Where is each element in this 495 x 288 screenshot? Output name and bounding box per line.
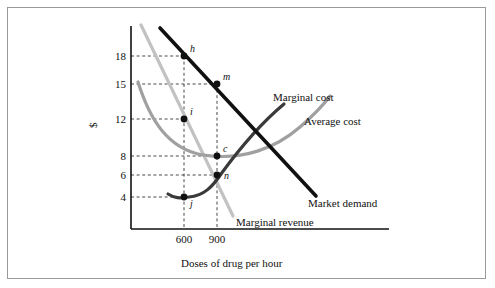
x-axis-title: Doses of drug per hour xyxy=(181,258,282,269)
y-axis-title: $ xyxy=(88,123,99,129)
point-label-m: m xyxy=(223,72,230,82)
xtick-label-600: 600 xyxy=(168,234,200,245)
point-label-j: j xyxy=(190,199,193,209)
curve-label-market-demand: Market demand xyxy=(308,198,377,209)
point-marker-n xyxy=(214,172,221,179)
ytick-label-4: 4 xyxy=(106,192,126,203)
point-marker-i xyxy=(181,116,188,123)
ytick-label-8: 8 xyxy=(106,151,126,162)
point-label-i: i xyxy=(190,107,193,117)
curve-label-marginal-revenue: Marginal revenue xyxy=(236,217,314,228)
curve-label-average-cost: Average cost xyxy=(304,116,361,127)
point-marker-m xyxy=(214,81,221,88)
point-marker-c xyxy=(214,153,221,160)
ytick-label-6: 6 xyxy=(106,170,126,181)
economics-chart-svg xyxy=(8,8,487,280)
figure-frame: 18 15 12 8 6 4 $ 600 900 Doses of drug p… xyxy=(7,7,486,279)
point-label-n: n xyxy=(224,171,229,181)
ytick-label-15: 15 xyxy=(106,79,126,90)
point-marker-j xyxy=(181,194,188,201)
xtick-label-900: 900 xyxy=(201,234,233,245)
point-marker-h xyxy=(181,53,188,60)
curve-label-marginal-cost: Marginal cost xyxy=(273,92,334,103)
point-label-c: c xyxy=(223,144,227,154)
ytick-label-18: 18 xyxy=(106,51,126,62)
ytick-label-12: 12 xyxy=(106,114,126,125)
point-label-h: h xyxy=(190,44,195,54)
